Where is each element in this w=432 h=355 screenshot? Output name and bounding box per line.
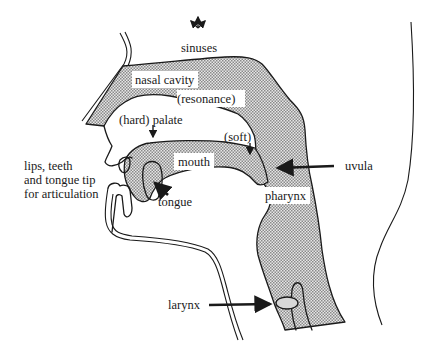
label-articulation-line2: and tongue tip (24, 173, 96, 187)
label-sinuses: sinuses (181, 41, 217, 55)
label-soft-palate: (soft) (224, 130, 251, 144)
vocal-tract-diagram: sinuses nasal cavity (resonance) (hard) … (0, 0, 432, 355)
label-larynx: larynx (168, 298, 201, 312)
back-of-head-outline (373, 22, 413, 325)
jaw-neck-outer (105, 188, 238, 340)
larynx-arrow-icon (209, 304, 270, 305)
label-nasal-cavity: nasal cavity (135, 73, 195, 87)
jaw-neck-inner (111, 194, 243, 340)
larynx-vocal-folds (276, 297, 298, 309)
label-hard-palate: (hard) palate (119, 113, 183, 127)
label-resonance: (resonance) (177, 92, 235, 106)
label-articulation-line1: lips, teeth (24, 159, 73, 173)
label-uvula: uvula (345, 159, 373, 173)
label-pharynx: pharynx (265, 189, 307, 203)
label-tongue: tongue (158, 195, 192, 209)
three-way-arrows-icon (191, 17, 205, 28)
label-mouth: mouth (178, 155, 211, 169)
label-articulation-line3: for articulation (24, 187, 99, 201)
